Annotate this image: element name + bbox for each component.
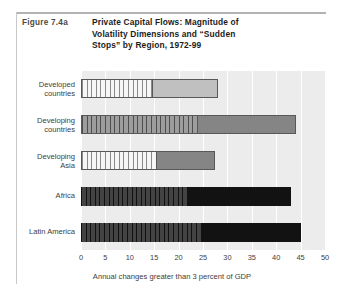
figure-container: Figure 7.4a Private Capital Flows: Magni… <box>0 0 343 303</box>
bar-row[interactable]: Developed countries <box>81 79 218 98</box>
x-axis-ticks: 05101520253035404550 <box>81 253 325 265</box>
figure-left-rule <box>16 12 17 284</box>
x-tick-label: 40 <box>272 253 280 262</box>
x-tick-label: 15 <box>150 253 158 262</box>
y-axis-label: Africa <box>5 192 75 201</box>
bar-row[interactable]: Latin America <box>81 223 301 242</box>
bar-segment-hatched[interactable] <box>81 79 153 98</box>
figure-number: Figure 7.4a <box>22 17 92 27</box>
x-tick-label: 45 <box>296 253 304 262</box>
bar-row[interactable]: Developing countries <box>81 115 296 134</box>
bar-segment-solid[interactable] <box>201 223 301 242</box>
header-top-rule <box>16 12 326 14</box>
y-axis-label: Developed countries <box>5 79 75 98</box>
bar-segment-hatched[interactable] <box>81 223 201 242</box>
y-axis-label: Latin America <box>5 227 75 236</box>
bar-row[interactable]: Developing Asia <box>81 151 215 170</box>
x-tick-label: 30 <box>223 253 231 262</box>
figure-title-line-1: Private Capital Flows: Magnitude of <box>92 17 239 29</box>
y-axis-label: Developing Asia <box>5 151 75 170</box>
bar-segment-hatched[interactable] <box>81 151 157 170</box>
bar-segment-solid[interactable] <box>153 79 218 98</box>
bar-segment-hatched[interactable] <box>81 115 198 134</box>
figure-header: Figure 7.4a Private Capital Flows: Magni… <box>22 17 322 52</box>
x-tick-label: 5 <box>103 253 107 262</box>
figure-title-line-3: Stops” by Region, 1972-99 <box>92 40 239 52</box>
x-tick-label: 35 <box>248 253 256 262</box>
chart-plot-area: Developed countriesDeveloping countriesD… <box>81 71 325 250</box>
x-tick-label: 50 <box>321 253 329 262</box>
y-axis-label: Developing countries <box>5 115 75 134</box>
x-axis-title: Annual changes greater than 3 percent of… <box>16 272 328 281</box>
bar-segment-solid[interactable] <box>188 187 290 206</box>
x-tick-label: 20 <box>174 253 182 262</box>
bar-segment-solid[interactable] <box>198 115 296 134</box>
gridline-45 <box>301 71 302 250</box>
bar-segment-solid[interactable] <box>157 151 216 170</box>
bar-row[interactable]: Africa <box>81 187 291 206</box>
chart-plot-wrapper: Developed countriesDeveloping countriesD… <box>81 71 325 250</box>
figure-title-line-2: Volatility Dimensions and “Sudden <box>92 29 239 41</box>
x-tick-label: 0 <box>79 253 83 262</box>
figure-title: Private Capital Flows: Magnitude of Vola… <box>92 17 239 52</box>
bar-segment-hatched[interactable] <box>81 187 188 206</box>
gridline-50 <box>325 71 326 250</box>
x-tick-label: 10 <box>126 253 134 262</box>
x-tick-label: 25 <box>199 253 207 262</box>
